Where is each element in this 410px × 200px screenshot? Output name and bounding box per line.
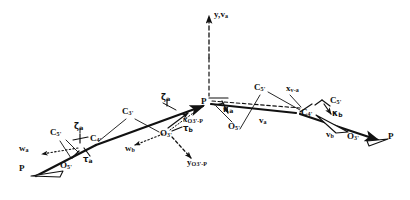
vector-y-o3-p	[172, 137, 191, 158]
arrow-o3-right-to-p	[367, 139, 388, 146]
atom-label-p-center: P	[201, 97, 207, 106]
vector-label-x-va: xv-a	[286, 84, 299, 93]
leader-c3-mid	[99, 119, 159, 141]
atom-label-o3-right: O3'	[347, 132, 359, 141]
arrow-p-left-to-o5	[31, 171, 63, 177]
atom-label-o5-center: O5'	[228, 122, 240, 131]
angle-label-tau-a: τa	[83, 155, 93, 164]
angle-label-kappa-a: κa	[223, 105, 233, 114]
atom-label-c3-mid: C3'	[122, 107, 133, 116]
angle-label-zeta-a-center: ζa	[161, 93, 170, 102]
angle-label-kappa-b: κb	[332, 109, 343, 118]
vector-w-a	[42, 148, 78, 154]
vector-label-v-b: vb	[326, 130, 334, 139]
atom-label-c5-far: C5'	[330, 96, 341, 105]
vector-label-y-o3-p: yO3'-P	[187, 158, 207, 167]
angle-marker-kappa-b	[315, 100, 331, 114]
angle-label-tau-b: τb	[183, 124, 193, 133]
figure-canvas: P O5' C5' C4' C3' O3' P O5' C5' C4' C5' …	[0, 0, 410, 200]
atom-label-c4-left: C4'	[90, 134, 101, 143]
vector-label-w-a: wa	[19, 144, 29, 153]
vector-w-b	[135, 134, 163, 145]
axis-label-y-va: y,va	[214, 10, 228, 19]
atom-label-c5-right: C5'	[254, 83, 265, 92]
atom-label-o5-left: O5'	[60, 161, 72, 170]
vector-label-v-a: va	[259, 116, 267, 125]
atom-label-p-left: P	[19, 164, 25, 173]
atom-label-c5-left: C5'	[50, 128, 61, 137]
atom-label-c4-right: C4'	[301, 108, 312, 117]
vector-label-w-b: wb	[125, 144, 135, 153]
atom-label-p-right: P	[388, 132, 394, 141]
atom-label-o3-mid: O3'	[160, 129, 172, 138]
angle-label-zeta-a-left: ζa	[74, 122, 83, 131]
